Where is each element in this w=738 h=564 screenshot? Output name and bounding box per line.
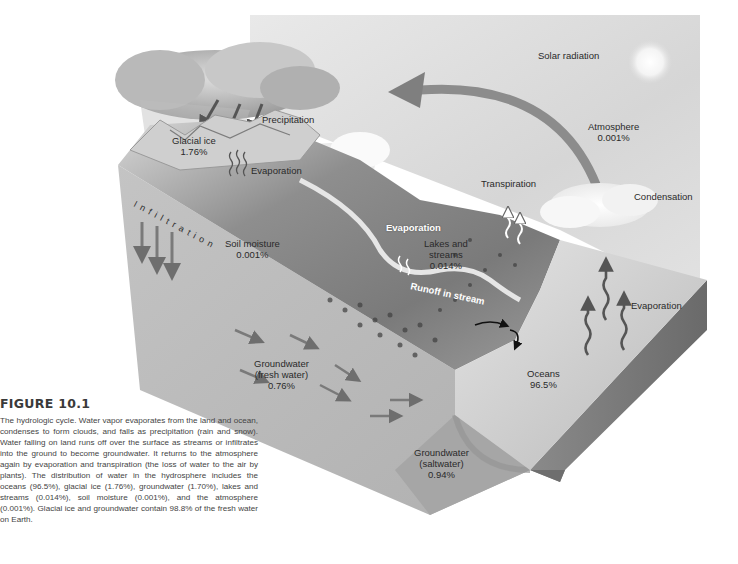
evaporation-lake-label: Evaporation <box>386 222 441 233</box>
figure-caption: FIGURE 10.1 The hydrologic cycle. Water … <box>0 396 258 525</box>
lakes-streams-label: Lakes and streams 0.014% <box>424 238 468 272</box>
groundwater-salt-value: 0.94% <box>414 469 469 480</box>
lakes-streams-name-1: Lakes and <box>424 238 468 249</box>
lakes-streams-name-2: streams <box>424 249 468 260</box>
oceans-name: Oceans <box>527 368 560 379</box>
soil-moisture-value: 0.001% <box>225 249 280 260</box>
lakes-streams-value: 0.014% <box>424 260 468 271</box>
precipitation-label: Precipitation <box>262 114 314 125</box>
glacial-ice-label: Glacial ice 1.76% <box>172 135 216 157</box>
groundwater-fresh-label: Groundwater (fresh water) 0.76% <box>254 358 309 392</box>
transpiration-label: Transpiration <box>481 178 536 189</box>
groundwater-fresh-name-1: Groundwater <box>254 358 309 369</box>
atmosphere-label: Atmosphere 0.001% <box>588 121 639 143</box>
groundwater-salt-label: Groundwater (saltwater) 0.94% <box>414 447 469 481</box>
groundwater-fresh-name-2: (fresh water) <box>254 369 309 380</box>
figure-number: FIGURE 10.1 <box>0 396 258 411</box>
groundwater-salt-name-1: Groundwater <box>414 447 469 458</box>
atmosphere-value: 0.001% <box>588 132 639 143</box>
oceans-value: 96.5% <box>527 379 560 390</box>
soil-moisture-label: Soil moisture 0.001% <box>225 238 280 260</box>
groundwater-fresh-value: 0.76% <box>254 380 309 391</box>
soil-moisture-name: Soil moisture <box>225 238 280 249</box>
glacial-ice-value: 1.76% <box>172 146 216 157</box>
figure-caption-text: The hydrologic cycle. Water vapor evapor… <box>0 415 258 525</box>
groundwater-salt-name-2: (saltwater) <box>414 458 469 469</box>
oceans-label: Oceans 96.5% <box>527 368 560 390</box>
condensation-label: Condensation <box>634 191 693 202</box>
evaporation-glacier-label: Evaporation <box>251 165 302 176</box>
glacial-ice-name: Glacial ice <box>172 135 216 146</box>
sun-icon <box>628 40 672 84</box>
evaporation-ocean-label: Evaporation <box>631 300 682 311</box>
solar-radiation-label: Solar radiation <box>538 50 599 61</box>
atmosphere-name: Atmosphere <box>588 121 639 132</box>
